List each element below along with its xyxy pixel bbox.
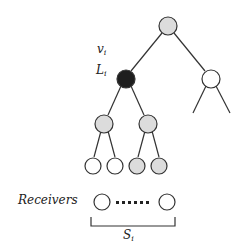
mid-node-right bbox=[139, 115, 157, 133]
edge bbox=[94, 131, 101, 157]
leaf-node bbox=[151, 158, 167, 174]
leaf-node bbox=[107, 158, 123, 174]
edge-right-right bbox=[216, 86, 230, 113]
tree-diagram bbox=[0, 0, 244, 249]
leaf-node bbox=[129, 158, 145, 174]
edge-vi-left bbox=[108, 86, 121, 115]
ellipsis-dots bbox=[116, 201, 149, 204]
Li-label: Li bbox=[96, 63, 107, 78]
vi-label: vi bbox=[97, 42, 106, 57]
edge bbox=[138, 131, 145, 157]
node-vi bbox=[117, 70, 135, 88]
mid-node-left bbox=[95, 115, 113, 133]
receiver-node-first bbox=[94, 194, 110, 210]
edge bbox=[152, 131, 159, 157]
edge-right-left bbox=[193, 86, 206, 113]
Si-label: Si bbox=[123, 228, 134, 243]
edge-root-left bbox=[131, 33, 162, 71]
receiver-node-last bbox=[159, 194, 175, 210]
edge bbox=[108, 131, 115, 157]
root-node bbox=[159, 17, 177, 35]
leaf-node bbox=[85, 158, 101, 174]
receivers-bracket bbox=[91, 217, 175, 226]
edge-vi-right bbox=[131, 86, 144, 115]
edge-root-right bbox=[174, 33, 205, 71]
receivers-label: Receivers bbox=[18, 193, 78, 207]
right-node bbox=[202, 70, 220, 88]
